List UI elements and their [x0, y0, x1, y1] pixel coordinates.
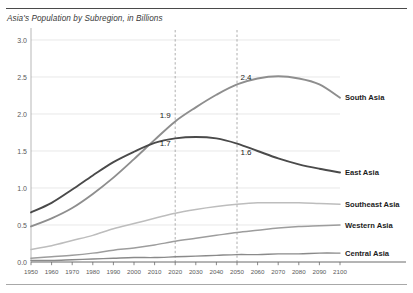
annotation-1-9: 1.9 [160, 111, 172, 120]
svg-text:3.0: 3.0 [17, 37, 27, 44]
reference-lines [175, 30, 237, 262]
svg-text:1.5: 1.5 [17, 148, 27, 155]
svg-text:1990: 1990 [107, 268, 121, 275]
svg-text:1950: 1950 [24, 268, 38, 275]
svg-text:0.5: 0.5 [17, 222, 27, 229]
series-label-western-asia: Western Asia [345, 221, 393, 230]
svg-text:2100: 2100 [333, 268, 347, 275]
x-axis-tick-labels: 1950196019701980199020002010202020302040… [24, 268, 347, 275]
svg-text:2070: 2070 [271, 268, 285, 275]
annotation-1-7: 1.7 [160, 139, 172, 148]
series-label-central-asia: Central Asia [345, 249, 390, 258]
svg-text:2080: 2080 [292, 268, 306, 275]
chart-figure: Asia's Population by Subregion, in Billi… [0, 0, 413, 293]
svg-text:2.5: 2.5 [17, 74, 27, 81]
svg-text:0.0: 0.0 [17, 259, 27, 266]
line-chart-plot: 0.00.51.01.52.02.53.0 195019601970198019… [0, 0, 413, 293]
svg-text:2000: 2000 [127, 268, 141, 275]
svg-text:1960: 1960 [45, 268, 59, 275]
svg-text:2010: 2010 [148, 268, 162, 275]
series-label-south-asia: South Asia [345, 93, 385, 102]
svg-text:2040: 2040 [210, 268, 224, 275]
svg-text:1.0: 1.0 [17, 185, 27, 192]
svg-text:2050: 2050 [230, 268, 244, 275]
annotation-2-4: 2.4 [240, 73, 252, 82]
svg-text:2020: 2020 [168, 268, 182, 275]
svg-text:2090: 2090 [313, 268, 327, 275]
svg-text:2.0: 2.0 [17, 111, 27, 118]
svg-text:2060: 2060 [251, 268, 265, 275]
gridlines [31, 40, 340, 225]
y-axis-tick-labels: 0.00.51.01.52.02.53.0 [17, 37, 27, 266]
svg-text:2030: 2030 [189, 268, 203, 275]
annotation-1-6: 1.6 [240, 148, 252, 157]
series-labels: South AsiaEast AsiaSoutheast AsiaWestern… [345, 93, 400, 257]
svg-text:1980: 1980 [86, 268, 100, 275]
series-label-southeast-asia: Southeast Asia [345, 200, 400, 209]
bottom-divider [6, 284, 407, 285]
series-label-east-asia: East Asia [345, 168, 380, 177]
series-curves [31, 76, 340, 260]
svg-text:1970: 1970 [65, 268, 79, 275]
